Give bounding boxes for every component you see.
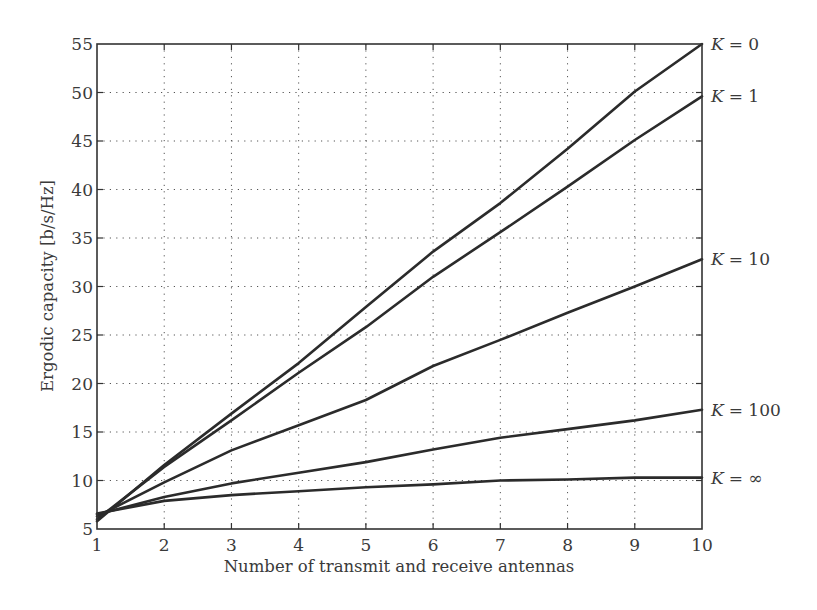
series-label-value: = 1: [729, 86, 759, 106]
series-label-2: K= 10: [710, 249, 770, 269]
series-label-value: = 100: [729, 400, 781, 420]
series-label-value: = 10: [729, 249, 770, 269]
x-axis-label: Number of transmit and receive antennas: [224, 557, 575, 576]
x-tick-label: 2: [159, 535, 170, 555]
y-tick-label: 30: [71, 277, 93, 297]
y-tick-label: 40: [71, 180, 93, 200]
x-tick-label: 1: [92, 535, 103, 555]
y-tick-label: 15: [71, 422, 93, 442]
y-tick-label: 25: [71, 325, 93, 345]
series-label-variable: K: [710, 249, 725, 269]
series-labels: K= 0K= 1K= 10K= 100K= ∞: [710, 34, 781, 488]
y-tick-label: 50: [71, 83, 93, 103]
series-label-value: = ∞: [729, 468, 763, 488]
series-label-0: K= 0: [710, 34, 759, 54]
x-tick-label: 6: [428, 535, 439, 555]
y-tick-label: 45: [71, 131, 93, 151]
series-label-1: K= 1: [710, 86, 759, 106]
series-label-4: K= ∞: [710, 468, 763, 488]
series-line-4: [97, 478, 702, 514]
x-tick-label: 4: [293, 535, 304, 555]
x-tick-label: 7: [495, 535, 506, 555]
series-label-value: = 0: [729, 34, 759, 54]
x-tick-label: 5: [360, 535, 371, 555]
y-tick-label: 20: [71, 374, 93, 394]
x-tick-label: 8: [562, 535, 573, 555]
series-label-3: K= 100: [710, 400, 781, 420]
x-tick-label: 3: [226, 535, 237, 555]
series-label-variable: K: [710, 86, 725, 106]
series-label-variable: K: [710, 468, 725, 488]
x-axis-tick-labels: 12345678910: [92, 535, 713, 555]
y-tick-label: 35: [71, 228, 93, 248]
data-series: [97, 44, 702, 521]
x-tick-label: 10: [691, 535, 713, 555]
series-label-variable: K: [710, 34, 725, 54]
y-axis-label: Ergodic capacity [b/s/Hz]: [38, 180, 57, 392]
x-tick-label: 9: [629, 535, 640, 555]
series-label-variable: K: [710, 400, 725, 420]
y-axis-tick-labels: 510152025303540455055: [71, 34, 93, 539]
y-tick-label: 10: [71, 471, 93, 491]
y-tick-label: 5: [82, 519, 93, 539]
capacity-chart: 12345678910 510152025303540455055 K= 0K=…: [0, 0, 817, 610]
chart-canvas: 12345678910 510152025303540455055 K= 0K=…: [0, 0, 817, 610]
y-tick-label: 55: [71, 34, 93, 54]
